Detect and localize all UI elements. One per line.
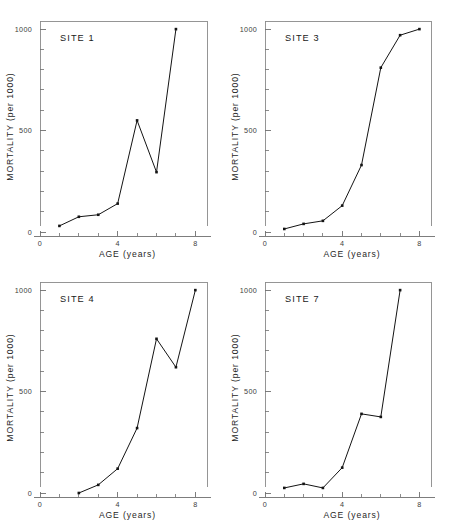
data-point-marker bbox=[341, 466, 344, 469]
chart-svg-site-1: 05001000048AGE (years)MORTALITY (per 100… bbox=[0, 0, 225, 261]
data-point-marker bbox=[78, 492, 81, 495]
x-tick-label: 0 bbox=[38, 500, 42, 509]
y-axis-title: MORTALITY (per 1000) bbox=[5, 333, 15, 441]
data-point-marker bbox=[302, 483, 305, 486]
panel-title: SITE 4 bbox=[60, 294, 95, 304]
data-point-marker bbox=[58, 225, 61, 228]
y-axis-title: MORTALITY (per 1000) bbox=[5, 72, 15, 180]
mortality-by-age-figure: 05001000048AGE (years)MORTALITY (per 100… bbox=[0, 0, 449, 522]
x-tick-label: 8 bbox=[417, 500, 421, 509]
y-tick-label: 0 bbox=[28, 489, 32, 498]
y-tick-label: 500 bbox=[244, 387, 257, 396]
x-tick-label: 0 bbox=[263, 500, 267, 509]
panel-title: SITE 7 bbox=[285, 294, 320, 304]
y-tick-label: 500 bbox=[19, 387, 32, 396]
data-series-line bbox=[284, 29, 419, 229]
chart-svg-site-7: 05001000048AGE (years)MORTALITY (per 100… bbox=[225, 261, 449, 522]
data-series-line bbox=[59, 29, 176, 226]
plot-frame bbox=[265, 21, 431, 226]
data-point-marker bbox=[380, 66, 383, 69]
x-axis-title: AGE (years) bbox=[99, 249, 156, 259]
chart-svg-site-4: 05001000048AGE (years)MORTALITY (per 100… bbox=[0, 261, 225, 522]
x-tick-label: 8 bbox=[417, 239, 421, 248]
data-point-marker bbox=[399, 34, 402, 37]
plot-frame bbox=[265, 282, 431, 487]
data-point-marker bbox=[399, 289, 402, 292]
y-tick-label: 1000 bbox=[15, 286, 32, 295]
y-tick-label: 500 bbox=[244, 126, 257, 135]
data-point-marker bbox=[97, 213, 100, 216]
data-point-marker bbox=[360, 413, 363, 416]
panel-title: SITE 1 bbox=[60, 33, 95, 43]
data-point-marker bbox=[136, 119, 139, 122]
y-tick-label: 0 bbox=[28, 228, 32, 237]
data-point-marker bbox=[78, 215, 81, 218]
data-point-marker bbox=[283, 487, 286, 490]
data-point-marker bbox=[380, 416, 383, 419]
data-point-marker bbox=[175, 366, 178, 369]
data-point-marker bbox=[155, 171, 158, 174]
data-point-marker bbox=[194, 289, 197, 292]
y-axis-title: MORTALITY (per 1000) bbox=[230, 72, 240, 180]
chart-panel-site-7: 05001000048AGE (years)MORTALITY (per 100… bbox=[225, 261, 449, 522]
plot-frame bbox=[40, 21, 207, 226]
x-tick-label: 4 bbox=[340, 500, 344, 509]
y-tick-label: 500 bbox=[19, 126, 32, 135]
y-tick-label: 1000 bbox=[15, 25, 32, 34]
data-series-line bbox=[79, 290, 196, 493]
y-tick-label: 1000 bbox=[240, 25, 257, 34]
y-tick-label: 0 bbox=[253, 228, 257, 237]
x-axis-title: AGE (years) bbox=[323, 249, 380, 259]
x-tick-label: 4 bbox=[116, 239, 120, 248]
data-point-marker bbox=[322, 220, 325, 223]
data-point-marker bbox=[116, 202, 119, 205]
x-tick-label: 0 bbox=[38, 239, 42, 248]
chart-svg-site-3: 05001000048AGE (years)MORTALITY (per 100… bbox=[225, 0, 449, 261]
data-point-marker bbox=[341, 204, 344, 207]
y-tick-label: 0 bbox=[253, 489, 257, 498]
x-tick-label: 0 bbox=[263, 239, 267, 248]
y-tick-label: 1000 bbox=[240, 286, 257, 295]
chart-panel-site-1: 05001000048AGE (years)MORTALITY (per 100… bbox=[0, 0, 225, 261]
data-point-marker bbox=[418, 28, 421, 31]
x-axis-title: AGE (years) bbox=[99, 510, 156, 520]
x-tick-label: 4 bbox=[116, 500, 120, 509]
chart-panel-site-3: 05001000048AGE (years)MORTALITY (per 100… bbox=[225, 0, 449, 261]
data-point-marker bbox=[322, 487, 325, 490]
data-point-marker bbox=[175, 28, 178, 31]
panel-title: SITE 3 bbox=[285, 33, 320, 43]
y-axis-title: MORTALITY (per 1000) bbox=[230, 333, 240, 441]
data-point-marker bbox=[136, 427, 139, 430]
chart-panel-site-4: 05001000048AGE (years)MORTALITY (per 100… bbox=[0, 261, 225, 522]
x-tick-label: 8 bbox=[193, 500, 197, 509]
data-point-marker bbox=[155, 338, 158, 341]
x-tick-label: 8 bbox=[193, 239, 197, 248]
x-axis-title: AGE (years) bbox=[323, 510, 380, 520]
data-series-line bbox=[284, 290, 400, 488]
data-point-marker bbox=[116, 467, 119, 470]
x-tick-label: 4 bbox=[340, 239, 344, 248]
data-point-marker bbox=[360, 164, 363, 167]
data-point-marker bbox=[97, 484, 100, 487]
data-point-marker bbox=[283, 228, 286, 231]
data-point-marker bbox=[302, 223, 305, 226]
